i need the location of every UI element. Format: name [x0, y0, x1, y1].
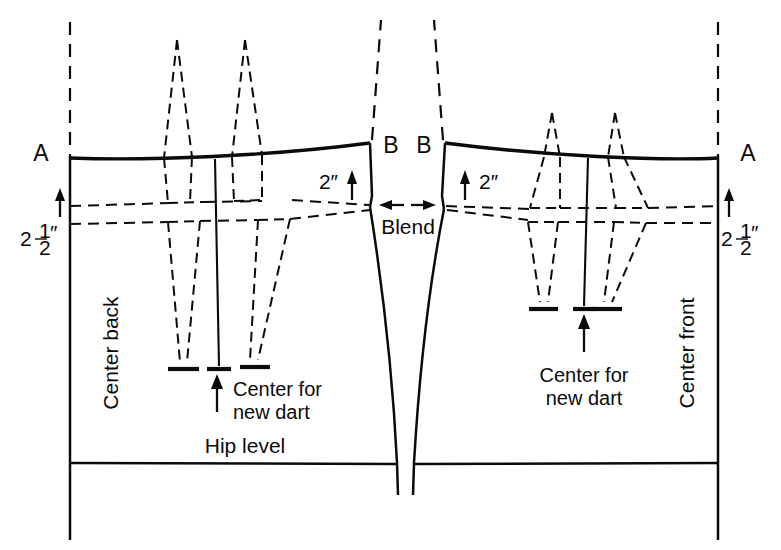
label-center-new-dart-front-line2: new dart	[546, 387, 623, 409]
label-point-b-left: B	[383, 132, 398, 158]
label-center-new-dart-back-line2: new dart	[233, 401, 310, 423]
label-measure-two-left: 2″	[319, 170, 339, 193]
pattern-diagram-root: A A B B 2 1 2 ″ 2 1 2 ″ 2″ 2″ Blend Cent…	[0, 0, 781, 550]
label-hip-level: Hip level	[205, 434, 286, 457]
label-center-front: Center front	[675, 297, 698, 408]
measure-inch-mark-left: ″	[50, 221, 58, 244]
hip-level-line-back	[70, 463, 396, 464]
label-point-a-left: A	[33, 140, 49, 166]
measure-whole-right: 2	[721, 227, 733, 250]
label-center-back: Center back	[99, 296, 122, 410]
label-blend: Blend	[381, 215, 435, 238]
label-center-new-dart-front-line1: Center for	[540, 364, 629, 386]
measure-whole-left: 2	[20, 227, 32, 250]
label-point-a-right: A	[740, 140, 756, 166]
measure-fraction-denominator-left: 2	[39, 236, 51, 259]
label-point-b-right: B	[416, 132, 431, 158]
label-center-new-dart-back-line1: Center for	[233, 378, 322, 400]
paper-background	[0, 0, 781, 550]
label-measure-two-right: 2″	[479, 170, 499, 193]
pattern-drafting-svg: A A B B 2 1 2 ″ 2 1 2 ″ 2″ 2″ Blend Cent…	[0, 0, 781, 550]
measure-inch-mark-right: ″	[751, 221, 759, 244]
measure-fraction-denominator-right: 2	[740, 236, 752, 259]
hip-level-line-front	[415, 463, 718, 464]
